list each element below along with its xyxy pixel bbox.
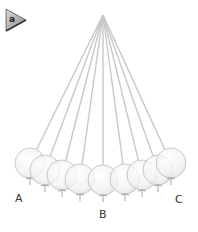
point-label-b: B (99, 209, 107, 220)
string-line (50, 15, 103, 156)
pendulum-strings (37, 15, 165, 165)
string-line (103, 15, 138, 160)
point-label-c: C (175, 194, 183, 205)
string-line (103, 15, 153, 156)
string-line (66, 15, 103, 160)
pendulum-diagram (0, 0, 198, 232)
pendulum-balls (15, 148, 186, 202)
point-label-a: A (15, 193, 23, 204)
panel-label: a (9, 14, 15, 24)
